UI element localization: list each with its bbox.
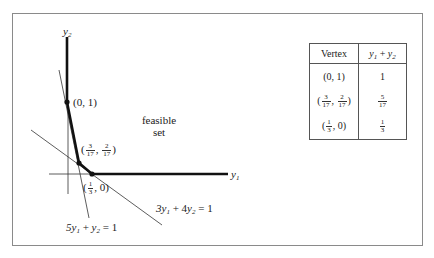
constraint-label-5y1-y2: 5y1 + y2 = 1 bbox=[66, 221, 117, 233]
table-row: (13, 0) 13 bbox=[310, 114, 407, 140]
vertex-dot-0-1 bbox=[64, 99, 69, 104]
header-vertex: Vertex bbox=[310, 44, 359, 64]
cell-value: 517 bbox=[359, 89, 407, 114]
cell-value: 13 bbox=[359, 114, 407, 140]
vertex-dot-3-17-2-17 bbox=[76, 160, 81, 165]
cell-vertex: (317, 217) bbox=[310, 89, 359, 114]
table-header-row: Vertex y1 + y2 bbox=[310, 44, 407, 64]
cell-vertex: (13, 0) bbox=[310, 114, 359, 140]
vertex-dot-1-3-0 bbox=[89, 171, 94, 176]
constraint-label-3y1-4y2: 3y1 + 4y2 = 1 bbox=[156, 202, 213, 214]
table-row: (0, 1) 1 bbox=[310, 64, 407, 90]
feasible-set-label: feasible set bbox=[141, 114, 177, 138]
header-objective: y1 + y2 bbox=[359, 44, 407, 64]
cell-value: 1 bbox=[359, 64, 407, 90]
cell-vertex: (0, 1) bbox=[310, 64, 359, 90]
table-row: (317, 217) 517 bbox=[310, 89, 407, 114]
y1-axis-label: y1 bbox=[231, 168, 239, 180]
vertex-objective-table: Vertex y1 + y2 (0, 1) 1 (317, 217) 517 (… bbox=[309, 43, 407, 140]
y2-axis-label: y2 bbox=[63, 25, 71, 37]
vertex-label-3-17-2-17: (317, 217) bbox=[81, 143, 116, 158]
vertex-label-0-1: (0, 1) bbox=[73, 96, 97, 108]
vertex-label-1-3-0: (13, 0) bbox=[83, 181, 109, 196]
